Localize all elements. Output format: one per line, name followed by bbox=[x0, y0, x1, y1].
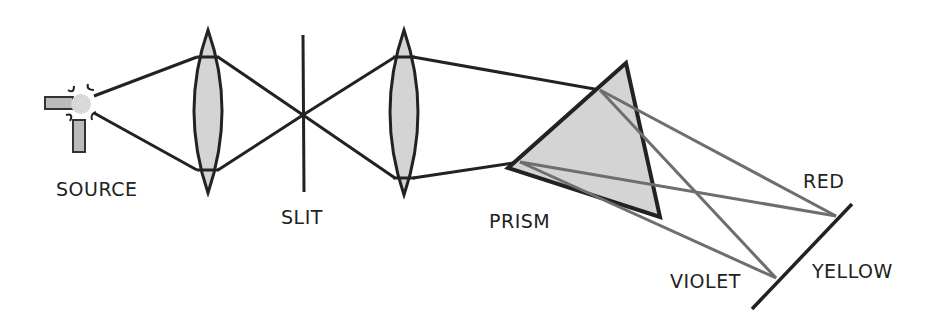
spectroscope-diagram: SOURCE SLIT PRISM RED YELLOW VIOLET bbox=[0, 0, 948, 334]
source-label: SOURCE bbox=[56, 178, 137, 200]
prism-label: PRISM bbox=[489, 210, 550, 232]
red-label: RED bbox=[803, 170, 844, 192]
slit-label: SLIT bbox=[281, 206, 323, 228]
diagram-canvas bbox=[0, 0, 948, 334]
light-source-icon bbox=[45, 84, 96, 152]
focusing-lens bbox=[390, 30, 418, 195]
yellow-label: YELLOW bbox=[812, 260, 893, 282]
slit-line bbox=[303, 35, 304, 192]
screen bbox=[752, 204, 852, 309]
violet-label: VIOLET bbox=[670, 270, 741, 292]
